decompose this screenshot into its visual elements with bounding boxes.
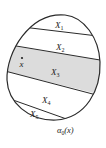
caption-alpha0: α0(x) bbox=[57, 125, 74, 136]
label-x4: X4 bbox=[41, 95, 51, 106]
partition-diagram: x X1 X2 X3 X4 X5 α0(x) bbox=[0, 0, 106, 148]
label-x5: X5 bbox=[29, 109, 39, 120]
label-x1: X1 bbox=[54, 20, 64, 31]
label-x2: X2 bbox=[55, 42, 65, 53]
point-x-label: x bbox=[19, 59, 24, 69]
